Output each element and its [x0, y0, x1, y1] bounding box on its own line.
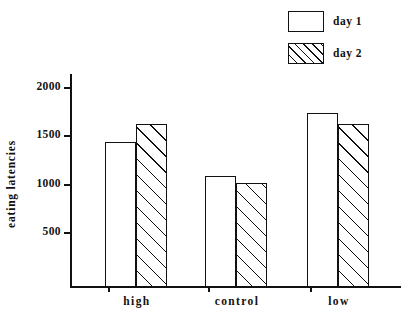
y-tick-label-2000: 2000: [36, 80, 61, 92]
y-axis-line: [70, 74, 72, 288]
y-tick-mark-1000: [64, 184, 71, 186]
y-tick-mark-2000: [64, 87, 71, 89]
y-tick-label-1500: 1500: [36, 128, 61, 140]
bar-high-day-2: [136, 124, 167, 287]
x-tick-label-low: low: [284, 295, 394, 307]
x-tick-mark-control: [208, 286, 210, 292]
plot-area: 2000 1500 1000 500 high control low: [0, 0, 413, 324]
y-tick-label-1000: 1000: [36, 177, 61, 189]
x-tick-mark-low: [310, 286, 312, 292]
x-tick-mark-high: [108, 286, 110, 292]
y-tick-mark-500: [64, 232, 71, 234]
bar-control-day-1: [205, 176, 236, 287]
bar-control-day-2: [236, 183, 267, 287]
x-tick-label-high: high: [82, 295, 192, 307]
bar-high-day-1: [105, 142, 136, 287]
bar-chart: day 1 day 2 eating latencies 2000 1500 1…: [0, 0, 413, 324]
y-tick-mark-1500: [64, 135, 71, 137]
bar-low-day-1: [307, 113, 338, 287]
bar-low-day-2: [338, 124, 369, 287]
y-tick-label-500: 500: [43, 225, 61, 237]
x-tick-label-control: control: [182, 295, 292, 307]
